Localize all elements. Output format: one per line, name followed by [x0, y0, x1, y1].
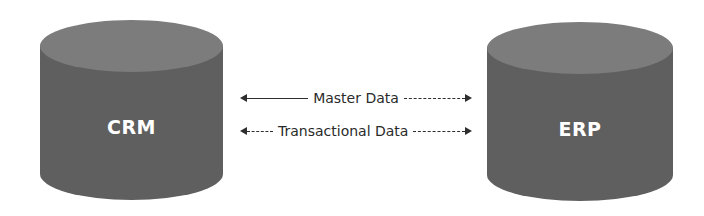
transactional-data-label: Transactional Data	[273, 123, 413, 139]
crm-database-cylinder: CRM	[40, 18, 223, 202]
cylinder-icon	[40, 18, 223, 202]
connector-line	[404, 98, 465, 99]
erp-database-cylinder: ERP	[487, 20, 673, 203]
arrow-right-icon	[465, 94, 472, 102]
connector-line	[413, 131, 465, 132]
connector-line	[247, 98, 308, 99]
arrow-left-icon	[240, 94, 247, 102]
crm-label: CRM	[40, 116, 223, 138]
connector-line	[247, 131, 273, 132]
transactional-data-connector: Transactional Data	[240, 122, 472, 140]
cylinder-icon	[487, 20, 673, 203]
arrow-left-icon	[240, 127, 247, 135]
erp-label: ERP	[487, 118, 673, 140]
master-data-connector: Master Data	[240, 89, 472, 107]
master-data-label: Master Data	[308, 90, 404, 106]
arrow-right-icon	[465, 127, 472, 135]
